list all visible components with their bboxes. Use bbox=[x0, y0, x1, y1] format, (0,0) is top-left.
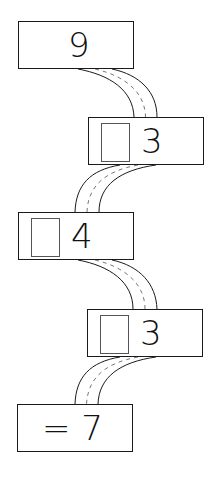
road-connector-1 bbox=[78, 69, 157, 117]
step-number-2: 4 bbox=[71, 215, 93, 257]
road-connector-2 bbox=[75, 165, 156, 212]
start-number-box: 9 bbox=[18, 21, 134, 69]
operator-blank-3[interactable] bbox=[100, 315, 129, 354]
road-connector-3 bbox=[78, 260, 157, 309]
number-path-diagram: 9 3 4 3 = 7 bbox=[0, 0, 219, 477]
step-box-1: 3 bbox=[88, 117, 204, 165]
step-box-2: 4 bbox=[18, 212, 134, 260]
step-box-3: 3 bbox=[87, 309, 203, 357]
step-number-1: 3 bbox=[141, 120, 163, 162]
step-number-3: 3 bbox=[140, 312, 162, 354]
result-box: = 7 bbox=[17, 404, 133, 452]
operator-blank-1[interactable] bbox=[101, 123, 130, 162]
start-number: 9 bbox=[68, 24, 90, 66]
operator-blank-2[interactable] bbox=[31, 218, 60, 257]
road-connector-4 bbox=[75, 357, 156, 404]
result-value: = 7 bbox=[42, 407, 103, 449]
